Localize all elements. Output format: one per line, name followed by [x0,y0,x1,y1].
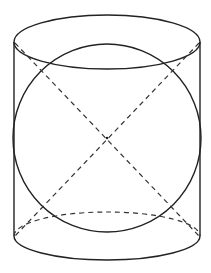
cylinder-top-ellipse [14,15,200,69]
center-point [106,137,109,140]
cylinder-sphere-diagram [0,0,211,273]
cylinder-bottom-front-arc [14,236,200,260]
